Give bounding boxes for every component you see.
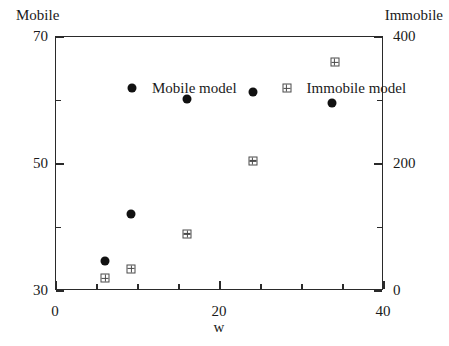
- x-axis-tick-label: 20: [212, 304, 227, 319]
- x-axis-major-tick: [383, 281, 385, 289]
- right-axis-major-tick: [374, 36, 382, 38]
- legend-item-mobile-model: Mobile model: [126, 81, 237, 96]
- immobile-model-marker-icon: [281, 82, 293, 94]
- x-axis-major-tick: [55, 281, 57, 289]
- x-axis-tick-label: 0: [51, 304, 59, 319]
- legend: Mobile model Immobile model: [118, 77, 428, 99]
- left-axis-tick-label: 30: [8, 283, 48, 298]
- left-axis-major-tick: [56, 290, 64, 292]
- right-axis-tick-label: 0: [393, 283, 443, 298]
- data-point-crossed-square: [248, 156, 257, 165]
- legend-item-immobile-model: Immobile model: [281, 81, 407, 96]
- x-axis-minor-tick: [137, 284, 139, 289]
- x-axis-minor-tick: [301, 284, 303, 289]
- x-axis-major-tick: [219, 281, 221, 289]
- left-axis-minor-tick: [56, 227, 61, 229]
- x-axis-minor-tick: [178, 284, 180, 289]
- data-point-crossed-square: [330, 58, 339, 67]
- right-axis-tick-label: 400: [393, 29, 443, 44]
- right-axis-minor-tick: [377, 100, 382, 102]
- left-axis-minor-tick: [56, 100, 61, 102]
- legend-label-immobile-model: Immobile model: [307, 81, 407, 96]
- data-point-filled-circle: [248, 88, 257, 97]
- x-axis-minor-tick: [260, 284, 262, 289]
- data-point-filled-circle: [101, 257, 110, 266]
- legend-label-mobile-model: Mobile model: [152, 81, 237, 96]
- x-axis-title: w: [214, 320, 225, 335]
- data-point-filled-circle: [127, 209, 136, 218]
- left-axis-tick-label: 70: [8, 29, 48, 44]
- right-axis-title: Immobile: [385, 8, 443, 23]
- data-point-crossed-square: [183, 229, 192, 238]
- x-axis-tick-label: 40: [376, 304, 391, 319]
- scatter-chart-figure: Mobile Immobile w Mobile model Immobile …: [0, 0, 449, 346]
- right-axis-major-tick: [374, 290, 382, 292]
- left-axis-tick-label: 50: [8, 156, 48, 171]
- left-axis-title: Mobile: [16, 8, 59, 23]
- right-axis-minor-tick: [377, 227, 382, 229]
- plot-area: Mobile model Immobile model: [55, 36, 383, 290]
- data-point-filled-circle: [183, 94, 192, 103]
- data-point-crossed-square: [101, 274, 110, 283]
- data-point-filled-circle: [327, 99, 336, 108]
- data-point-crossed-square: [127, 264, 136, 273]
- left-axis-major-tick: [56, 36, 64, 38]
- mobile-model-marker-icon: [126, 82, 138, 94]
- x-axis-minor-tick: [342, 284, 344, 289]
- right-axis-tick-label: 200: [393, 156, 443, 171]
- x-axis-minor-tick: [96, 284, 98, 289]
- left-axis-major-tick: [56, 163, 64, 165]
- right-axis-major-tick: [374, 163, 382, 165]
